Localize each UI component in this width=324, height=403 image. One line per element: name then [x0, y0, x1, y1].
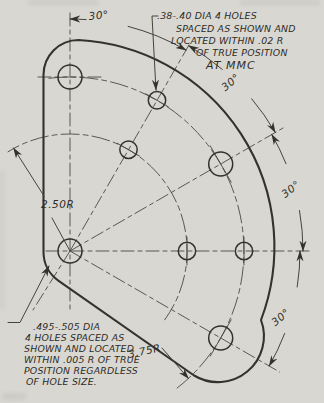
scan-smudge — [240, 0, 320, 5]
note-top-line: .38-.40 DIA 4 HOLES — [157, 10, 257, 21]
note-bottom-line: OF HOLE SIZE. — [26, 376, 97, 387]
note-bottom-line: .495-.505 DIA — [33, 321, 100, 332]
note-top-line: AT MMC — [205, 59, 256, 72]
scan-smudge — [0, 170, 4, 310]
note-bottom-line: SHOWN AND LOCATED — [24, 343, 134, 354]
scan-smudge — [2, 393, 26, 400]
scanned-drawing-page: 30° 30° 30° 30° 2.50R 3.75R .38-.40 DIA … — [0, 0, 324, 403]
radius-label-inner: 2.50R — [41, 198, 74, 210]
technical-drawing: 30° 30° 30° 30° 2.50R 3.75R .38-.40 DIA … — [0, 0, 324, 403]
note-top-line: OF TRUE POSITION — [196, 47, 288, 58]
note-bottom-line: 4 HOLES SPACED AS — [25, 332, 124, 343]
note-bottom-line: POSITION REGARDLESS — [24, 365, 138, 376]
dim-arc-30-1a — [70, 19, 86, 20]
note-bottom-line: WITHIN .005 R OF TRUE — [24, 354, 140, 365]
note-top-line: SPACED AS SHOWN AND — [176, 23, 296, 34]
scan-smudge — [28, 0, 98, 5]
note-top-line: LOCATED WITHIN .02 R — [171, 35, 283, 46]
angle-label-top: 30° — [88, 8, 109, 22]
